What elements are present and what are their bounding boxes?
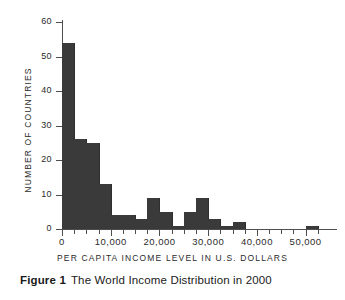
x-tick: [62, 229, 63, 236]
figure-caption: Figure 1The World Income Distribution in…: [20, 274, 340, 286]
x-tick-minor: [172, 229, 173, 234]
x-tick-minor: [74, 229, 75, 234]
figure-caption-text: The World Income Distribution in 2000: [71, 274, 272, 286]
x-tick-minor: [123, 229, 124, 234]
x-tick-minor: [196, 229, 197, 234]
x-tick-label: 50,000: [271, 236, 341, 247]
histogram-bar: [111, 215, 124, 229]
x-axis-title: PER CAPITA INCOME LEVEL IN U.S. DOLLARS: [0, 253, 345, 263]
histogram-bar: [172, 226, 185, 229]
figure-container: 0102030405060 010,00020,00030,00040,0005…: [0, 0, 345, 300]
x-tick-minor: [318, 229, 319, 234]
x-tick-minor: [135, 229, 136, 234]
histogram-bar: [208, 219, 221, 229]
histogram-bar: [233, 222, 246, 229]
y-axis-title: NUMBER OF COUNTRIES: [23, 40, 33, 220]
histogram-chart: 0102030405060 010,00020,00030,00040,0005…: [0, 0, 345, 268]
x-tick: [159, 229, 160, 236]
histogram-bar: [99, 184, 112, 229]
y-tick-label: 0: [22, 223, 52, 233]
histogram-bar: [135, 219, 148, 229]
x-tick-minor: [233, 229, 234, 234]
x-tick-minor: [269, 229, 270, 234]
x-tick-minor: [220, 229, 221, 234]
x-tick: [111, 229, 112, 236]
y-tick-label: 60: [22, 16, 52, 26]
figure-number: Figure 1: [20, 274, 66, 286]
x-tick-minor: [184, 229, 185, 234]
histogram-bar: [147, 198, 160, 229]
x-tick: [257, 229, 258, 236]
x-tick: [208, 229, 209, 236]
x-tick-minor: [245, 229, 246, 234]
x-tick-minor: [86, 229, 87, 234]
x-tick: [306, 229, 307, 236]
x-tick-minor: [281, 229, 282, 234]
histogram-bar: [184, 212, 197, 229]
x-axis-line: [62, 229, 337, 230]
plot-area: [62, 22, 330, 229]
histogram-bar: [74, 139, 87, 229]
x-tick-minor: [147, 229, 148, 234]
histogram-bar: [306, 226, 319, 229]
x-tick-minor: [99, 229, 100, 234]
x-tick-minor: [293, 229, 294, 234]
